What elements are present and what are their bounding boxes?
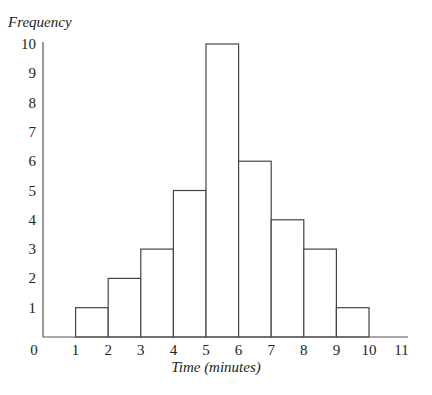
y-tick-label: 2	[29, 270, 37, 286]
histogram-bar	[239, 161, 272, 337]
y-tick-label: 1	[29, 300, 37, 316]
x-tick-label: 4	[170, 342, 178, 358]
histogram-bar	[141, 249, 174, 337]
histogram-bar	[76, 308, 109, 337]
y-tick-label: 4	[29, 212, 37, 228]
x-tick-label: 1	[72, 342, 80, 358]
x-tick-label: 8	[300, 342, 308, 358]
y-tick-label: 10	[21, 36, 36, 52]
y-tick-label: 6	[29, 153, 37, 169]
y-tick-label: 9	[29, 65, 37, 81]
x-axis-ticks: 01234567891011	[30, 342, 409, 358]
y-tick-label: 8	[29, 95, 37, 111]
histogram-chart: Frequency 12345678910 01234567891011 Tim…	[0, 0, 432, 395]
x-tick-label: 2	[104, 342, 112, 358]
x-tick-label: 0	[30, 342, 38, 358]
x-tick-label: 7	[267, 342, 275, 358]
histogram-bar	[206, 44, 239, 337]
histogram-bar	[108, 278, 141, 337]
y-axis-label: Frequency	[7, 14, 72, 30]
x-axis-label: Time (minutes)	[171, 359, 261, 376]
histogram-bar	[336, 308, 369, 337]
y-tick-label: 3	[29, 241, 37, 257]
histogram-bars	[76, 44, 369, 337]
x-tick-label: 11	[394, 342, 408, 358]
x-tick-label: 9	[333, 342, 341, 358]
x-tick-label: 3	[137, 342, 145, 358]
histogram-bar	[304, 249, 337, 337]
y-tick-label: 5	[29, 183, 37, 199]
histogram-bar	[271, 220, 304, 337]
x-tick-label: 6	[235, 342, 243, 358]
histogram-bar	[173, 191, 206, 338]
x-tick-label: 10	[362, 342, 377, 358]
y-axis-ticks: 12345678910	[21, 36, 37, 316]
y-tick-label: 7	[29, 124, 37, 140]
x-tick-label: 5	[202, 342, 210, 358]
